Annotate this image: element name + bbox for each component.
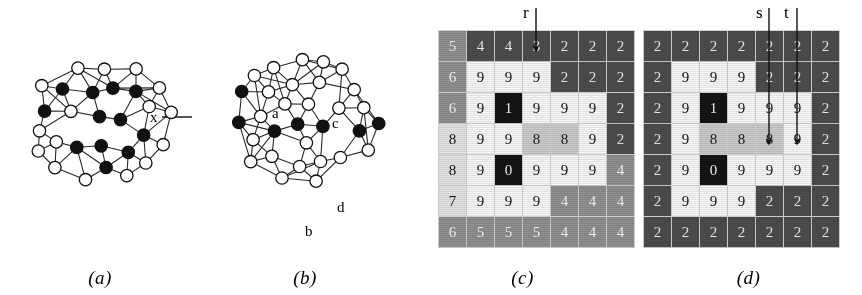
graph-node-empty	[313, 76, 325, 88]
graph-node-empty	[293, 160, 305, 172]
heatmap-cell: 9	[672, 186, 699, 216]
graph-node-empty	[157, 139, 169, 151]
heatmap-cell: 9	[672, 62, 699, 92]
heatmap-cell: 2	[728, 217, 755, 247]
heatmap-cell: 4	[551, 186, 578, 216]
heatmap-cell: 9	[672, 93, 699, 123]
graph-node-empty	[310, 175, 322, 187]
heatmap-cell: 8	[728, 124, 755, 154]
heatmap-cell: 2	[700, 31, 727, 61]
graph-node-empty	[267, 61, 279, 73]
heatmap-cell: 2	[784, 217, 811, 247]
graph-node-label-x: x	[150, 109, 158, 125]
heatmap-cell: 2	[812, 62, 839, 92]
heatmap-cell: 2	[607, 31, 634, 61]
graph-node-empty	[247, 134, 259, 146]
heatmap-cell: 8	[439, 155, 466, 185]
heatmap-cell: 2	[644, 186, 671, 216]
heatmap-cell: 2	[607, 62, 634, 92]
heatmap-cell: 2	[700, 217, 727, 247]
graph-node-empty	[262, 86, 274, 98]
panel-c: 5443222699922269199928998892890999479994…	[410, 0, 635, 295]
heatmap-cell: 9	[495, 186, 522, 216]
heatmap-cell: 9	[467, 93, 494, 123]
heatmap-cell: 2	[812, 124, 839, 154]
heatmap-cell: 9	[551, 93, 578, 123]
heatmap-cell: 0	[700, 155, 727, 185]
graph-node-empty	[317, 56, 329, 68]
graph-node-empty	[121, 169, 133, 181]
heatmap-cell: 9	[523, 155, 550, 185]
heatmap-cell: 6	[439, 217, 466, 247]
graph-node-empty	[245, 156, 257, 168]
graph-node-filled	[95, 140, 107, 152]
graph-node-filled	[317, 120, 329, 132]
graph-node-empty	[33, 125, 45, 137]
panel-d: 2222222299922229199922988892290999229992…	[635, 0, 862, 295]
heatmap-d-container: 2222222299922229199922988892290999229992…	[643, 30, 840, 248]
graph-node-empty	[72, 62, 84, 74]
graph-node-empty	[98, 63, 110, 75]
heatmap-cell: 2	[644, 155, 671, 185]
heatmap-cell: 9	[467, 186, 494, 216]
heatmap-cell: 2	[728, 31, 755, 61]
heatmap-cell: 2	[579, 31, 606, 61]
heatmap-cell: 5	[439, 31, 466, 61]
heatmap-cell: 4	[607, 217, 634, 247]
heatmap-cell: 2	[644, 124, 671, 154]
annotation-arrow-s	[765, 8, 779, 150]
graph-node-empty	[255, 110, 267, 122]
heatmap-cell: 8	[551, 124, 578, 154]
graph-node-empty	[358, 102, 370, 114]
graph-node-empty	[65, 105, 77, 117]
annotation-arrow-r	[532, 8, 546, 57]
graph-a: xy	[0, 0, 200, 250]
graph-node-filled	[233, 116, 245, 128]
heatmap-cell: 9	[728, 155, 755, 185]
heatmap-cell: 9	[467, 124, 494, 154]
graph-node-label-b: b	[305, 223, 313, 239]
heatmap-cell: 2	[812, 217, 839, 247]
heatmap-cell: 4	[495, 31, 522, 61]
annotation-label-r: r	[523, 3, 529, 23]
heatmap-cell: 9	[551, 155, 578, 185]
panel-c-caption: (c)	[410, 267, 635, 289]
graph-node-filled	[268, 125, 280, 137]
graph-node-filled	[71, 141, 83, 153]
heatmap-cell: 2	[579, 62, 606, 92]
graph-node-empty	[300, 137, 312, 149]
heatmap-cell: 4	[551, 217, 578, 247]
heatmap-cell: 8	[439, 124, 466, 154]
heatmap-cell: 9	[784, 155, 811, 185]
heatmap-cell: 2	[551, 62, 578, 92]
graph-node-empty	[296, 54, 308, 66]
graph-node-empty	[165, 106, 177, 118]
panel-b-caption: (b)	[200, 267, 410, 289]
graph-node-empty	[314, 155, 326, 167]
heatmap-cell: 7	[439, 186, 466, 216]
heatmap-d-grid: 2222222299922229199922988892290999229992…	[643, 30, 840, 248]
graph-node-empty	[32, 145, 44, 157]
graph-node-empty	[153, 82, 165, 94]
heatmap-cell: 9	[579, 93, 606, 123]
graph-node-empty	[266, 150, 278, 162]
heatmap-cell: 2	[672, 217, 699, 247]
graph-node-label-d: d	[337, 199, 345, 215]
graph-node-filled	[292, 118, 304, 130]
graph-node-empty	[334, 151, 346, 163]
heatmap-cell: 4	[467, 31, 494, 61]
heatmap-cell: 9	[672, 124, 699, 154]
heatmap-cell: 2	[784, 186, 811, 216]
panel-a-caption: (a)	[0, 267, 200, 289]
heatmap-cell: 2	[644, 93, 671, 123]
graph-node-filled	[236, 85, 248, 97]
graph-node-filled	[373, 117, 385, 129]
graph-node-empty	[348, 84, 360, 96]
heatmap-cell: 9	[495, 62, 522, 92]
annotation-label-s: s	[756, 3, 763, 23]
graph-node-empty	[36, 80, 48, 92]
graph-node-filled	[122, 146, 134, 158]
heatmap-cell: 9	[495, 124, 522, 154]
heatmap-cell: 2	[644, 31, 671, 61]
heatmap-cell: 9	[579, 124, 606, 154]
